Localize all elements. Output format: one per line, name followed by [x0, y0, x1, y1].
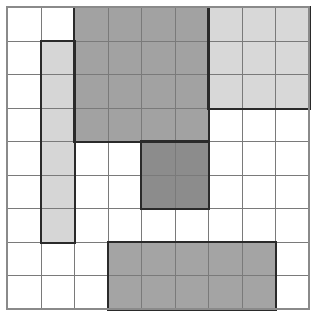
grid-cell — [74, 41, 109, 75]
grid-cell — [7, 41, 42, 75]
grid-cell — [242, 242, 276, 276]
grid-cell — [242, 208, 276, 243]
grid-cell — [175, 41, 209, 75]
grid-cell — [7, 108, 42, 142]
grid-cell — [74, 74, 109, 109]
grid-cell — [175, 242, 209, 276]
grid-cell — [208, 7, 243, 42]
grid-cell — [108, 74, 142, 109]
grid-cell — [175, 208, 209, 243]
grid-cell — [275, 208, 310, 243]
grid-cell — [175, 7, 209, 42]
grid-cell — [208, 141, 243, 176]
grid-cell — [141, 175, 176, 209]
grid-cell — [74, 275, 109, 310]
grid-cell — [242, 7, 276, 42]
grid-cell — [41, 7, 75, 42]
grid-cell — [141, 275, 176, 310]
grid-cell — [208, 208, 243, 243]
grid-cell — [242, 41, 276, 75]
grid-cell — [74, 141, 109, 176]
grid-cell — [208, 41, 243, 75]
grid-cell — [175, 175, 209, 209]
grid-cell — [108, 208, 142, 243]
grid-cell — [7, 275, 42, 310]
grid-cell — [74, 7, 109, 42]
grid-cell — [275, 275, 310, 310]
grid-cell — [275, 7, 310, 42]
grid-cell — [141, 242, 176, 276]
grid-cell — [108, 141, 142, 176]
grid-cell — [208, 275, 243, 310]
grid-cell — [41, 208, 75, 243]
grid-cell — [175, 275, 209, 310]
grid-cell — [41, 74, 75, 109]
grid-cell — [275, 108, 310, 142]
grid-cell — [141, 208, 176, 243]
grid-cell — [208, 74, 243, 109]
grid-cell — [108, 242, 142, 276]
grid-cell — [242, 108, 276, 142]
grid-cell — [74, 208, 109, 243]
grid-cell — [242, 74, 276, 109]
grid-cell — [141, 141, 176, 176]
grid-cell — [275, 41, 310, 75]
grid-cell — [275, 242, 310, 276]
grid-cell — [242, 141, 276, 176]
grid-cell — [175, 74, 209, 109]
grid-cell — [141, 7, 176, 42]
grid-cell — [275, 175, 310, 209]
grid-cell — [7, 208, 42, 243]
grid-cell — [108, 275, 142, 310]
grid-cell — [208, 108, 243, 142]
grid-cell — [74, 108, 109, 142]
grid-cell — [275, 141, 310, 176]
grid-cell — [41, 175, 75, 209]
grid-cell — [108, 108, 142, 142]
grid-diagram — [7, 7, 309, 309]
grid-cell — [141, 41, 176, 75]
grid-cell — [7, 74, 42, 109]
grid-cell — [41, 242, 75, 276]
grid-cell — [41, 41, 75, 75]
grid-cell — [7, 242, 42, 276]
grid-cell — [108, 7, 142, 42]
grid-cell — [141, 108, 176, 142]
grid-cell — [41, 275, 75, 310]
grid-cell — [41, 141, 75, 176]
grid-cell — [74, 175, 109, 209]
grid-cell — [141, 74, 176, 109]
grid-cell — [74, 242, 109, 276]
grid-cell — [242, 275, 276, 310]
grid-cell — [275, 74, 310, 109]
grid-cell — [175, 108, 209, 142]
grid-cell — [41, 108, 75, 142]
grid-cell — [108, 175, 142, 209]
grid-cell — [208, 175, 243, 209]
grid-cell — [7, 141, 42, 176]
grid-cell — [7, 175, 42, 209]
grid-cell — [208, 242, 243, 276]
grid-cell — [108, 41, 142, 75]
grid-cell — [7, 7, 42, 42]
grid-cell — [175, 141, 209, 176]
grid-cell — [242, 175, 276, 209]
